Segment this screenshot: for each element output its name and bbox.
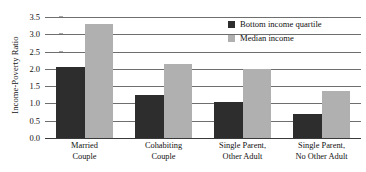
y-axis-tick-label: 2.5	[18, 48, 40, 56]
x-axis-category-labels: MarriedCoupleCohabitingCoupleSingle Pare…	[45, 141, 361, 169]
y-axis-tick-label: 1.5	[18, 82, 40, 90]
bar-chart-figure: Income-Poverty Ratio 0.00.51.01.52.02.53…	[0, 0, 366, 172]
x-axis-category-label: Single Parent,Other Adult	[203, 141, 282, 162]
y-axis-tick-label: 0.5	[18, 117, 40, 125]
legend-swatch-icon	[228, 21, 235, 28]
bar	[214, 102, 243, 138]
legend-item-label: Bottom income quartile	[240, 20, 322, 29]
legend-item: Median income	[228, 32, 360, 45]
legend-item: Bottom income quartile	[228, 18, 360, 31]
x-axis-category-label: Single Parent,No Other Adult	[282, 141, 361, 162]
x-axis-category-label: MarriedCouple	[45, 141, 124, 162]
y-axis-tick-label: 2.0	[18, 65, 40, 73]
bar	[243, 69, 272, 138]
y-axis-tick-label: 1.0	[18, 99, 40, 107]
y-axis-tick-label: 3.0	[18, 30, 40, 38]
bar	[135, 95, 164, 138]
y-axis-tick-labels: 0.00.51.01.52.02.53.03.5	[18, 10, 40, 142]
bar	[164, 64, 193, 138]
x-axis-line	[45, 138, 361, 139]
bar	[85, 24, 114, 138]
y-axis-tick-label: 0.0	[18, 134, 40, 142]
chart-legend: Bottom income quartileMedian income	[228, 18, 360, 46]
bar	[322, 91, 351, 138]
y-axis-tick-label: 3.5	[18, 13, 40, 21]
bar	[293, 114, 322, 138]
bar	[56, 67, 85, 138]
legend-swatch-icon	[228, 35, 235, 42]
x-axis-category-label: CohabitingCouple	[124, 141, 203, 162]
legend-item-label: Median income	[240, 34, 294, 43]
